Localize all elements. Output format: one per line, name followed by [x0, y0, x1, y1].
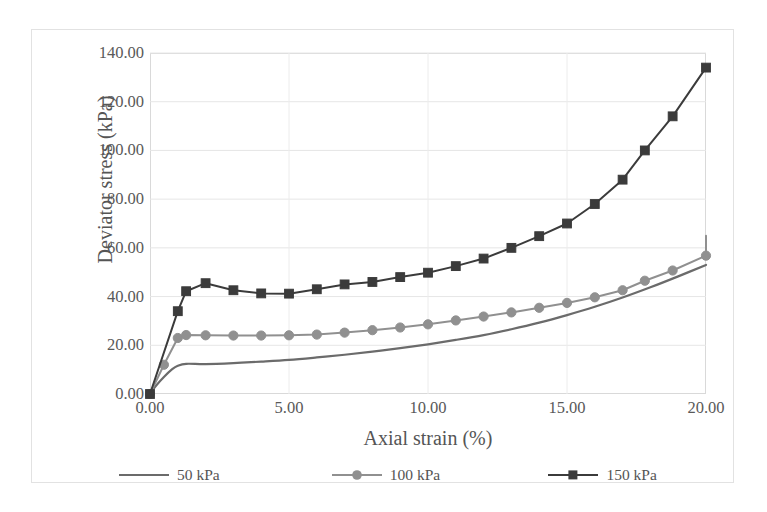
data-point-marker: [563, 219, 572, 228]
data-point-marker: [507, 243, 516, 252]
data-point-marker: [312, 330, 321, 339]
x-tick-label: 5.00: [275, 400, 304, 417]
data-point-marker: [396, 273, 405, 282]
y-tick-label: 120.00: [99, 94, 144, 111]
y-tick-label: 40.00: [107, 289, 144, 306]
figure-container: Deviator stress (kPa) 0.0020.0040.0060.0…: [0, 0, 767, 512]
y-axis-tick-labels: 0.0020.0040.0060.0080.00100.00120.00140.…: [36, 53, 144, 394]
y-tick-label: 80.00: [107, 191, 144, 208]
data-point-marker: [182, 287, 191, 296]
y-tick-label: 60.00: [107, 240, 144, 257]
data-point-marker: [507, 308, 516, 317]
data-point-marker: [451, 262, 460, 271]
y-tick-label: 100.00: [99, 142, 144, 159]
data-point-marker: [423, 320, 432, 329]
data-point-marker: [590, 293, 599, 302]
data-point-marker: [668, 266, 677, 275]
data-point-marker: [368, 278, 377, 287]
data-point-marker: [229, 286, 238, 295]
data-point-marker: [285, 289, 294, 298]
data-point-marker: [640, 146, 649, 155]
data-point-marker: [535, 303, 544, 312]
legend-swatch-circle-icon: [330, 467, 384, 483]
x-tick-label: 0.00: [136, 400, 165, 417]
data-point-marker: [424, 268, 433, 277]
data-series-layer: [150, 53, 706, 394]
plot-area-wrapper: [150, 53, 706, 394]
data-point-marker: [201, 331, 210, 340]
data-point-marker: [284, 331, 293, 340]
x-axis-tick-labels: 0.005.0010.0015.0020.00: [150, 400, 706, 424]
data-point-marker: [479, 254, 488, 263]
series-50-kpa: [150, 265, 706, 394]
legend-item-150-kpa[interactable]: 150 kPa: [493, 467, 710, 483]
legend-label: 50 kPa: [177, 467, 220, 483]
data-point-marker: [618, 286, 627, 295]
data-point-marker: [257, 289, 266, 298]
data-point-marker: [590, 200, 599, 209]
data-point-marker: [451, 316, 460, 325]
data-point-marker: [173, 307, 182, 316]
data-point-marker: [340, 328, 349, 337]
x-tick-label: 15.00: [548, 400, 585, 417]
data-point-marker: [396, 323, 405, 332]
data-point-marker: [312, 285, 321, 294]
series-line: [150, 265, 706, 394]
legend-label: 100 kPa: [390, 467, 440, 483]
data-point-marker: [368, 326, 377, 335]
x-tick-label: 20.00: [687, 400, 724, 417]
y-tick-label: 20.00: [107, 337, 144, 354]
series-150-kpa: [146, 63, 711, 398]
series-100-kpa: [145, 236, 710, 399]
legend-swatch-square-icon: [546, 467, 600, 483]
data-point-marker: [640, 276, 649, 285]
series-line: [150, 236, 706, 394]
data-point-marker: [668, 112, 677, 121]
data-point-marker: [701, 251, 710, 260]
chart-legend: 50 kPa100 kPa150 kPa: [60, 462, 710, 488]
legend-item-100-kpa[interactable]: 100 kPa: [277, 467, 494, 483]
data-point-marker: [201, 279, 210, 288]
data-point-marker: [479, 312, 488, 321]
data-point-marker: [229, 331, 238, 340]
data-point-marker: [562, 298, 571, 307]
data-point-marker: [182, 330, 191, 339]
data-point-marker: [618, 175, 627, 184]
data-point-marker: [535, 232, 544, 241]
x-axis-title: Axial strain (%): [150, 427, 706, 450]
legend-label: 150 kPa: [606, 467, 656, 483]
data-point-marker: [702, 63, 711, 72]
legend-item-50-kpa[interactable]: 50 kPa: [60, 467, 277, 483]
data-point-marker: [340, 280, 349, 289]
y-tick-label: 140.00: [99, 45, 144, 62]
x-tick-label: 10.00: [409, 400, 446, 417]
data-point-marker: [173, 333, 182, 342]
data-point-marker: [257, 331, 266, 340]
legend-swatch-line-icon: [117, 467, 171, 483]
